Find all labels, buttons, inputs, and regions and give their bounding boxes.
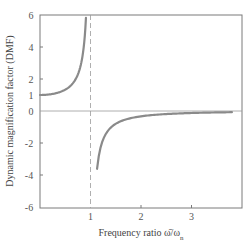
- svg-text:1: 1: [29, 90, 34, 101]
- y-axis-title: Dynamic magnification factor (DMF): [4, 35, 16, 186]
- y-tick-labels: 6 4 2 1 0 -2 -4 -6: [25, 10, 34, 213]
- dmf-curve-above-resonance: [97, 112, 232, 169]
- dmf-chart: 6 4 2 1 0 -2 -4 -6 1 2 3 Frequency ratio…: [0, 0, 252, 244]
- dmf-curve-below-resonance: [40, 18, 86, 95]
- x-axis-title: Frequency ratio ω̄/ωn: [99, 227, 184, 242]
- svg-text:-4: -4: [25, 170, 33, 181]
- svg-text:1: 1: [88, 211, 93, 222]
- svg-text:0: 0: [29, 106, 34, 117]
- svg-text:6: 6: [29, 10, 34, 21]
- svg-text:-2: -2: [25, 138, 33, 149]
- svg-text:2: 2: [29, 74, 34, 85]
- svg-text:2: 2: [139, 211, 144, 222]
- svg-text:4: 4: [29, 42, 34, 53]
- x-tick-labels: 1 2 3: [88, 211, 194, 222]
- svg-text:-6: -6: [25, 202, 33, 213]
- svg-text:3: 3: [189, 211, 194, 222]
